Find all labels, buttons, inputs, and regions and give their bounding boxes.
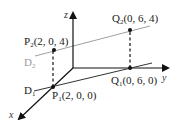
point-p2 (52, 48, 56, 52)
point-q2 (128, 28, 132, 32)
label-p1: P1(2, 0, 0) (52, 89, 97, 103)
label-q2: Q2(0, 6, 4) (112, 12, 159, 26)
label-p2: P2(2, 0, 4) (24, 35, 69, 49)
y-axis-label: y (161, 72, 167, 83)
z-axis-label: z (63, 9, 68, 20)
label-d2: D2 (24, 56, 36, 70)
diagram-canvas: z y x Q2(0, 6, 4) P2(2, 0, 4) Q1(0, 6, 0… (0, 0, 183, 133)
x-axis-label: x (8, 109, 14, 120)
label-q1: Q1(0, 6, 0) (111, 74, 158, 88)
label-d1: D1 (24, 84, 36, 98)
point-q1 (128, 66, 132, 70)
